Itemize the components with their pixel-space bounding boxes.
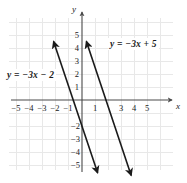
equation-label-line-2: y = −3x + 5 (108, 38, 159, 50)
axis-lines (11, 12, 172, 172)
svg-text:4: 4 (132, 103, 137, 113)
svg-text:−2: −2 (71, 121, 80, 131)
svg-text:5: 5 (75, 30, 79, 40)
svg-text:−3: −3 (71, 134, 80, 144)
svg-text:5: 5 (145, 103, 149, 113)
svg-text:−3: −3 (37, 103, 46, 113)
svg-text:1: 1 (93, 103, 97, 113)
svg-text:−5: −5 (11, 103, 20, 113)
graph-figure: −5 −4 −3 −2 −1 1 3 4 5 5 4 3 2 1 −2 −3 −… (0, 0, 187, 183)
x-axis-label: x (176, 101, 180, 111)
svg-text:2: 2 (75, 69, 79, 79)
svg-text:−1: −1 (63, 103, 72, 113)
x-tick-labels: −5 −4 −3 −2 −1 1 3 4 5 (11, 103, 149, 113)
svg-text:−5: −5 (71, 160, 80, 170)
y-axis-label: y (72, 4, 76, 14)
svg-text:1: 1 (75, 82, 79, 92)
equation-label-line-1: y = −3x − 2 (5, 69, 56, 81)
svg-text:−4: −4 (24, 103, 34, 113)
svg-text:3: 3 (75, 56, 79, 66)
svg-text:3: 3 (119, 103, 123, 113)
svg-text:−4: −4 (71, 147, 81, 157)
coordinate-plane: −5 −4 −3 −2 −1 1 3 4 5 5 4 3 2 1 −2 −3 −… (0, 0, 187, 183)
svg-text:−2: −2 (50, 103, 59, 113)
